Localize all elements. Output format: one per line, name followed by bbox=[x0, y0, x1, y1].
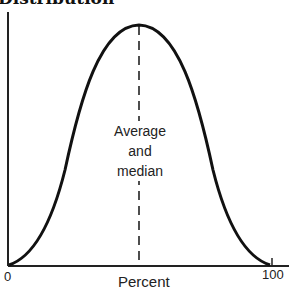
annotation-line-3: median bbox=[104, 161, 176, 181]
average-median-annotation: Average and median bbox=[104, 121, 176, 181]
annotation-line-1: Average bbox=[104, 121, 176, 141]
annotation-line-2: and bbox=[104, 141, 176, 161]
x-axis-label: Percent bbox=[118, 273, 170, 290]
x-tick-label-0: 0 bbox=[4, 269, 11, 284]
x-tick-label-100: 100 bbox=[262, 267, 284, 282]
